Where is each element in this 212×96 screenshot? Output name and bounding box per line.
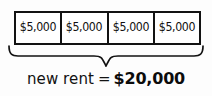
tape-segment-label: $5,000 [159, 22, 195, 34]
caption-equals-sign: = [98, 72, 111, 87]
tape-segment: $5,000 [62, 13, 108, 43]
tape-segment: $5,000 [109, 13, 155, 43]
tape-segment-label: $5,000 [20, 22, 56, 34]
tape-segment: $5,000 [16, 13, 62, 43]
tape-diagram-figure: $5,000 $5,000 $5,000 $5,000 new rent = $… [0, 0, 212, 96]
tape-segment-label: $5,000 [66, 22, 102, 34]
caption-quantity-label: new rent [27, 72, 94, 87]
tape-bar: $5,000 $5,000 $5,000 $5,000 [14, 11, 201, 45]
tape-segment-label: $5,000 [112, 22, 148, 34]
tape-segment: $5,000 [155, 13, 199, 43]
caption: new rent = $20,000 [0, 64, 212, 94]
caption-total-label: $20,000 [114, 71, 185, 87]
